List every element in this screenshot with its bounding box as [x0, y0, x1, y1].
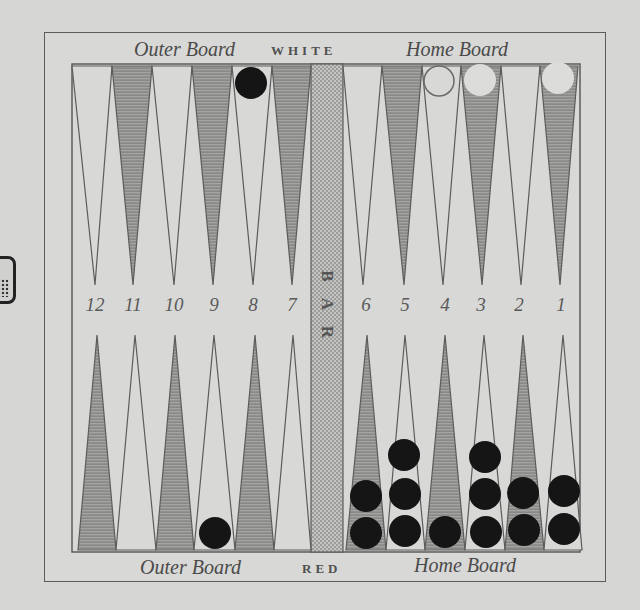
point-number: 8: [238, 294, 268, 316]
point-number: 12: [80, 294, 110, 316]
bottom-player-label: RED: [302, 561, 341, 577]
point-number: 11: [118, 294, 148, 316]
point-number: 1: [546, 294, 576, 316]
bar-label: B A R: [312, 262, 342, 346]
black-checker: [235, 67, 267, 99]
point-number: 6: [351, 294, 381, 316]
white-checker: [464, 64, 496, 96]
white-checker-outline: [424, 66, 454, 96]
point-number: 7: [277, 294, 307, 316]
point-number: 2: [504, 294, 534, 316]
point-number: 5: [390, 294, 420, 316]
point-number: 4: [430, 294, 460, 316]
point-number: 10: [159, 294, 189, 316]
point-number: 9: [199, 294, 229, 316]
bottom-home-board-label: Home Board: [414, 554, 516, 577]
bottom-outer-board-label: Outer Board: [140, 556, 241, 579]
point-number: 3: [466, 294, 496, 316]
white-checker: [542, 62, 574, 94]
